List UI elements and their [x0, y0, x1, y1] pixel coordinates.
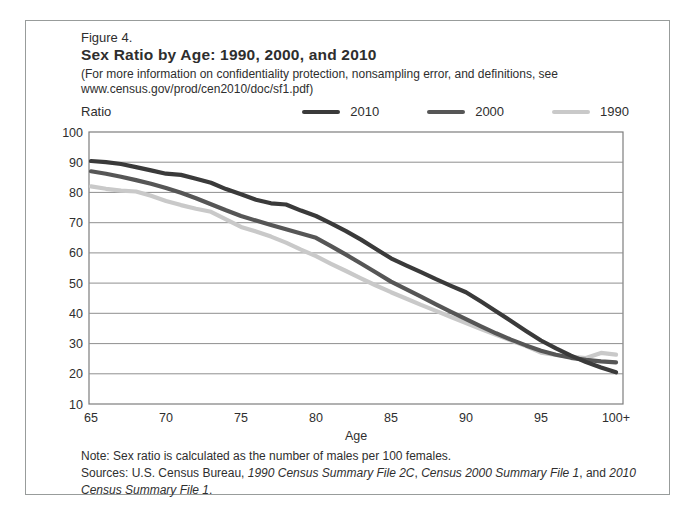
y-axis-tick-labels: 100908070605040302010 — [62, 126, 83, 412]
figure-subtitle: (For more information on confidentiality… — [81, 67, 596, 97]
source-1990: 1990 Census Summary File 2C — [248, 466, 415, 480]
svg-text:65: 65 — [84, 411, 98, 425]
svg-text:100: 100 — [62, 126, 83, 140]
legend-swatch-1990 — [552, 110, 590, 114]
svg-text:80: 80 — [69, 186, 83, 200]
legend-swatch-2000 — [427, 110, 465, 114]
x-axis-title: Age — [345, 429, 367, 443]
figure-panel: Figure 4. Sex Ratio by Age: 1990, 2000, … — [25, 20, 670, 495]
title-block: Figure 4. Sex Ratio by Age: 1990, 2000, … — [81, 30, 596, 97]
legend-item-2010: 2010 — [302, 104, 379, 119]
legend-row: Ratio 2010 2000 1990 — [81, 104, 629, 119]
footnotes: Note: Sex ratio is calculated as the num… — [81, 448, 669, 499]
svg-text:50: 50 — [69, 277, 83, 291]
x-axis-tick-labels: 65707580859095100+ — [84, 411, 630, 425]
svg-text:40: 40 — [69, 307, 83, 321]
figure-label: Figure 4. — [81, 30, 596, 45]
svg-text:30: 30 — [69, 337, 83, 351]
svg-text:90: 90 — [69, 156, 83, 170]
page: Figure 4. Sex Ratio by Age: 1990, 2000, … — [0, 0, 697, 521]
svg-text:60: 60 — [69, 246, 83, 260]
sources-sep-2: , and — [579, 466, 609, 480]
svg-text:10: 10 — [69, 398, 83, 412]
svg-text:70: 70 — [159, 411, 173, 425]
chart-area: 10090807060504030201065707580859095100+A… — [56, 126, 656, 446]
sources-prefix: Sources: U.S. Census Bureau, — [81, 466, 248, 480]
svg-text:90: 90 — [459, 411, 473, 425]
svg-text:85: 85 — [384, 411, 398, 425]
svg-text:70: 70 — [69, 216, 83, 230]
legend-label-2000: 2000 — [475, 104, 504, 119]
sources-text: Sources: U.S. Census Bureau, 1990 Census… — [81, 465, 669, 499]
legend-item-2000: 2000 — [427, 104, 504, 119]
svg-text:80: 80 — [309, 411, 323, 425]
legend-swatch-2010 — [302, 110, 340, 114]
figure-title: Sex Ratio by Age: 1990, 2000, and 2010 — [81, 46, 596, 64]
svg-text:95: 95 — [534, 411, 548, 425]
legend: 2010 2000 1990 — [302, 104, 629, 119]
legend-label-2010: 2010 — [350, 104, 379, 119]
source-2000: Census 2000 Summary File 1 — [421, 466, 579, 480]
legend-item-1990: 1990 — [552, 104, 629, 119]
note-text: Note: Sex ratio is calculated as the num… — [81, 448, 669, 465]
sex-ratio-line-chart: 10090807060504030201065707580859095100+A… — [56, 126, 656, 446]
sources-suffix: . — [209, 483, 212, 497]
y-axis-title: Ratio — [81, 104, 111, 119]
legend-label-1990: 1990 — [600, 104, 629, 119]
svg-text:100+: 100+ — [602, 411, 630, 425]
svg-text:75: 75 — [234, 411, 248, 425]
svg-text:20: 20 — [69, 367, 83, 381]
